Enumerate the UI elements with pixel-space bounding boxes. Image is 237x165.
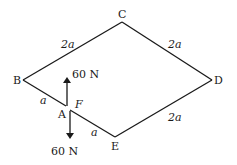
- node-d-label: D: [214, 74, 223, 87]
- node-a-label: A: [57, 108, 67, 121]
- node-e-label: E: [111, 140, 119, 153]
- length-bc-label: 2a: [60, 38, 75, 51]
- node-b-label: B: [13, 74, 21, 87]
- member-de: [115, 80, 212, 137]
- member-cd: [122, 22, 212, 80]
- node-f-label: F: [74, 98, 83, 111]
- length-ba-label: a: [40, 94, 47, 107]
- force-down-label: 60 N: [51, 145, 78, 158]
- length-de-label: 2a: [167, 111, 182, 124]
- length-cd-label: 2a: [167, 38, 182, 51]
- force-up-label: 60 N: [72, 68, 99, 81]
- length-fe-label: a: [91, 126, 98, 139]
- truss-diagram: C B D A F E 2a 2a 2a a a 60 N 60 N: [0, 0, 237, 165]
- node-c-label: C: [118, 8, 126, 21]
